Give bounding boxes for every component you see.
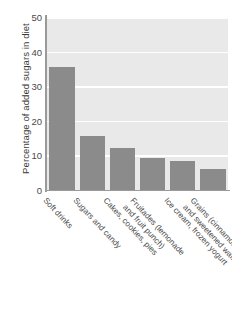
plot-area bbox=[47, 17, 228, 190]
x-axis-tick-label: Soft drinks bbox=[41, 196, 74, 231]
bar-chart: Percentage of added sugars in diet 50403… bbox=[0, 0, 232, 331]
bar-series bbox=[47, 17, 228, 190]
y-axis-tick-label: 50 bbox=[20, 12, 42, 23]
y-axis-tick-label: 20 bbox=[20, 115, 42, 126]
bar bbox=[170, 161, 195, 190]
y-axis-tick-label: 30 bbox=[20, 81, 42, 92]
bar bbox=[49, 67, 74, 190]
y-axis-tick-label: 10 bbox=[20, 150, 42, 161]
bar bbox=[80, 136, 105, 190]
bar bbox=[200, 169, 225, 190]
bar bbox=[140, 158, 165, 190]
y-axis-tick-label: 40 bbox=[20, 46, 42, 57]
x-axis-tick-labels: Soft drinksSugars and candyCakes, cookie… bbox=[0, 190, 232, 331]
bar bbox=[110, 148, 135, 190]
